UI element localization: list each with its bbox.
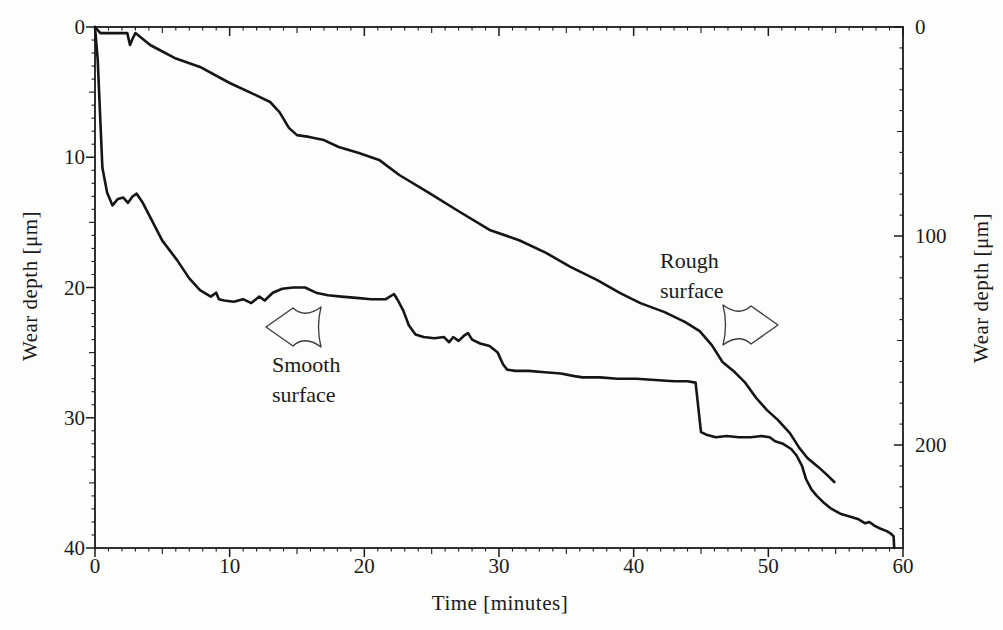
smooth-surface-annotation: Smooth surface xyxy=(272,350,340,411)
rough-surface-annotation: Rough surface xyxy=(660,246,724,307)
wear-depth-figure: 01020304050600102030400100200 Wear depth… xyxy=(0,0,1003,630)
right-y-axis-title: Wear depth [μm] xyxy=(969,213,994,363)
chart-canvas: 01020304050600102030400100200 xyxy=(0,0,1003,630)
x-tick-label: 30 xyxy=(489,554,510,578)
left-y-tick-label: 0 xyxy=(75,15,86,39)
left-y-tick-label: 10 xyxy=(64,145,85,169)
x-tick-label: 50 xyxy=(758,554,779,578)
x-tick-label: 20 xyxy=(354,554,375,578)
right-y-tick-label: 0 xyxy=(915,15,926,39)
left-y-tick-label: 40 xyxy=(64,536,85,560)
x-tick-label: 0 xyxy=(90,554,101,578)
smooth-surface-arrow-icon xyxy=(266,307,321,347)
left-y-tick-label: 30 xyxy=(64,406,85,430)
rough-surface-arrow-icon xyxy=(723,305,778,345)
right-y-tick-label: 100 xyxy=(915,224,947,248)
left-y-axis-title: Wear depth [μm] xyxy=(18,211,43,361)
left-y-tick-label: 20 xyxy=(64,276,85,300)
right-y-tick-label: 200 xyxy=(915,433,947,457)
smooth-surface-curve xyxy=(95,27,894,548)
x-axis-title: Time [minutes] xyxy=(432,591,568,616)
x-tick-label: 10 xyxy=(219,554,240,578)
plot-frame xyxy=(95,27,903,548)
x-tick-label: 40 xyxy=(623,554,644,578)
x-tick-label: 60 xyxy=(893,554,914,578)
